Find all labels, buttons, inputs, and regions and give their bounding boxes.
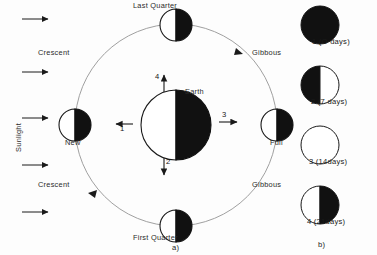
label-crescent-lower-left: Crescent xyxy=(38,180,70,189)
moon-last-quarter xyxy=(160,9,192,41)
label-arrow-3: 3 xyxy=(222,110,226,119)
moon-new-dark-half xyxy=(75,109,91,141)
earth-dark-half xyxy=(176,90,211,160)
label-new: New xyxy=(65,138,81,147)
caption-b: b) xyxy=(318,240,325,249)
label-phase-3: 3 (14days) xyxy=(309,157,347,166)
label-full: Full xyxy=(270,138,283,147)
label-first-quarter: First Quarter xyxy=(133,233,178,242)
label-arrow-2: 2 xyxy=(166,157,170,166)
label-gibbous-upper-right: Gibbous xyxy=(252,48,281,57)
earth-body xyxy=(141,90,211,160)
moon-first-quarter-dark-half xyxy=(176,210,192,242)
label-arrow-1: 1 xyxy=(120,124,124,133)
label-phase-1: 1 (O days) xyxy=(312,37,350,46)
moon-last-quarter-lit-half xyxy=(160,9,176,41)
label-crescent-upper-left: Crescent xyxy=(38,48,70,57)
label-gibbous-lower-right: Gibbous xyxy=(252,180,281,189)
sunlight-label: Sunlight xyxy=(14,123,23,152)
moon-phases-diagram: Sunlight Last Quarter New Full First Qua… xyxy=(0,0,377,255)
moon-full xyxy=(261,109,293,141)
caption-a: a) xyxy=(172,243,179,252)
label-earth: Earth xyxy=(185,87,204,96)
earth-lit-half xyxy=(141,90,176,160)
moon-full-lit-half xyxy=(261,109,277,141)
moon-new xyxy=(59,109,91,141)
label-phase-4: 4 (21days) xyxy=(307,217,345,226)
label-phase-2: 2 (7 days) xyxy=(311,97,347,106)
orbit-arrowhead-upper-right xyxy=(234,48,243,55)
label-last-quarter: Last Quarter xyxy=(133,1,177,10)
orbit-arrowhead-lower-left xyxy=(88,190,97,198)
moon-full-dark-half xyxy=(277,109,293,141)
label-arrow-4: 4 xyxy=(155,72,159,81)
moon-last-quarter-dark-half xyxy=(176,9,192,41)
moon-new-lit-half xyxy=(59,109,75,141)
